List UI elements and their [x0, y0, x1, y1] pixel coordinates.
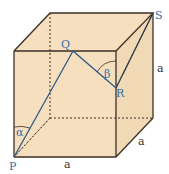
angle-label-beta: β: [104, 68, 110, 81]
point-label-q: Q: [61, 38, 70, 51]
point-label-s: S: [155, 9, 163, 22]
dimension-label-height: a: [157, 62, 164, 75]
cube-diagram: Q S R P α β a a a: [0, 0, 169, 174]
point-label-r: R: [116, 87, 125, 100]
dimension-label-bottom: a: [64, 158, 71, 171]
angle-label-alpha: α: [16, 126, 24, 139]
dimension-label-depth: a: [138, 135, 145, 148]
point-label-p: P: [9, 160, 17, 173]
